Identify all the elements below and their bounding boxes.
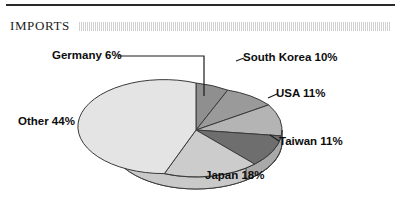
pie-label-taiwan: Taiwan 11% (279, 136, 343, 148)
page-title: IMPORTS (10, 18, 70, 34)
section-header: IMPORTS (10, 18, 390, 34)
chart-stage: Germany 6% South Korea 10% USA 11% Taiwa… (0, 34, 401, 200)
hatched-rule-icon (79, 22, 390, 31)
pie-label-germany: Germany 6% (52, 50, 122, 62)
pie-label-south-korea: South Korea 10% (243, 52, 338, 64)
pie-label-other: Other 44% (18, 116, 75, 128)
pie-label-japan: Japan 18% (205, 170, 264, 182)
pie-slices (78, 80, 282, 177)
top-divider-rule (6, 4, 395, 6)
pie-label-usa: USA 11% (276, 88, 325, 100)
imports-pie-chart-figure: IMPORTS (0, 0, 401, 200)
